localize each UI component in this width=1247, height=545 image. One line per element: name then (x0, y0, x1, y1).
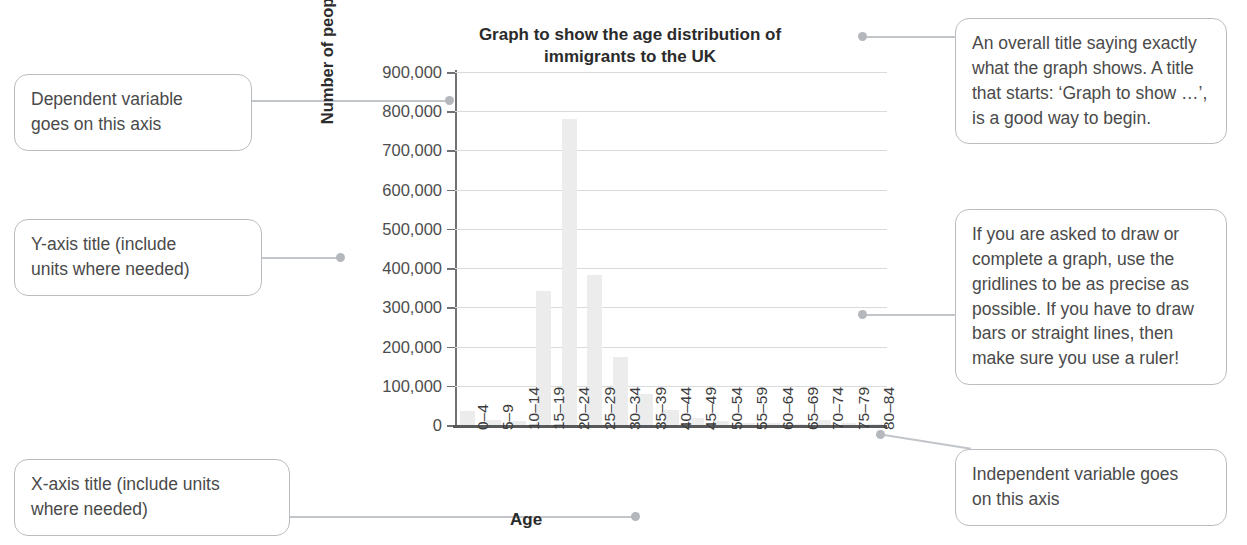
y-axis-tick-labels: 0100,000200,000300,000400,000500,000600,… (320, 14, 442, 434)
chart-title-line-1: Graph to show the age distribution of (479, 25, 781, 44)
y-axis-tick-label: 600,000 (330, 180, 442, 199)
gridline (455, 72, 887, 73)
x-axis-tick-label: 50–54 (728, 387, 746, 430)
y-axis-tick-label: 300,000 (330, 298, 442, 317)
y-axis-tick-label: 200,000 (330, 337, 442, 356)
x-axis-tick-label: 55–59 (753, 387, 771, 430)
gridline (455, 190, 887, 191)
callout-x-axis-title-text: X-axis title (include units where needed… (31, 472, 273, 522)
y-axis-tick-label: 700,000 (330, 141, 442, 160)
y-axis-tick-label: 900,000 (330, 63, 442, 82)
gridline (455, 347, 887, 348)
x-axis-tick-label: 60–64 (779, 387, 797, 430)
callout-y-axis-title: Y-axis title (include units where needed… (14, 219, 262, 296)
x-axis-tick-label: 20–24 (575, 387, 593, 430)
y-axis-tick-label: 0 (330, 416, 442, 435)
plot-area (455, 72, 887, 425)
chart-title: Graph to show the age distribution of im… (430, 24, 830, 68)
gridline (455, 150, 887, 151)
x-axis-tick-label: 45–49 (702, 387, 720, 430)
annotated-chart-page: Dependent variable goes on this axis Y-a… (0, 0, 1247, 545)
gridline (455, 307, 887, 308)
x-axis-tick-label: 70–74 (829, 387, 847, 430)
x-axis-tick-label: 0–4 (474, 404, 492, 430)
bar (562, 119, 577, 425)
x-axis-tick-label: 30–34 (626, 387, 644, 430)
bar (460, 411, 475, 425)
callout-overall-title-text: An overall title saying exactly what the… (972, 31, 1210, 130)
gridline (455, 386, 887, 387)
x-axis-tick-label: 80–84 (880, 387, 898, 430)
callout-independent-variable-text: Independent variable goes on this axis (972, 462, 1210, 512)
callout-y-axis-title-text: Y-axis title (include units where needed… (31, 232, 245, 282)
y-axis-tick-label: 400,000 (330, 259, 442, 278)
gridline (455, 229, 887, 230)
callout-independent-variable: Independent variable goes on this axis (955, 449, 1227, 526)
callout-dependent-variable-text: Dependent variable goes on this axis (31, 87, 235, 137)
x-axis-title: Age (510, 510, 542, 530)
callout-gridlines-advice: If you are asked to draw or complete a g… (955, 209, 1227, 385)
callout-dependent-variable: Dependent variable goes on this axis (14, 74, 252, 151)
gridline (455, 111, 887, 112)
x-axis-tick-label: 10–14 (525, 387, 543, 430)
x-axis-tick-labels: 0–45–910–1415–1920–2425–2930–3435–3940–4… (455, 430, 887, 510)
y-axis-tick-label: 500,000 (330, 219, 442, 238)
x-axis-tick-label: 35–39 (652, 387, 670, 430)
chart-title-line-2: immigrants to the UK (544, 47, 716, 66)
x-axis-tick-label: 15–19 (550, 387, 568, 430)
gridline (455, 268, 887, 269)
x-axis-tick-label: 25–29 (601, 387, 619, 430)
callout-overall-title: An overall title saying exactly what the… (955, 18, 1227, 144)
x-axis-tick-label: 65–69 (804, 387, 822, 430)
y-axis-tick-label: 800,000 (330, 102, 442, 121)
x-axis-tick-label: 40–44 (677, 387, 695, 430)
x-axis-tick-label: 75–79 (855, 387, 873, 430)
bar-chart: Graph to show the age distribution of im… (320, 14, 900, 534)
callout-x-axis-title: X-axis title (include units where needed… (14, 459, 290, 536)
y-axis-tick-label: 100,000 (330, 376, 442, 395)
callout-gridlines-advice-text: If you are asked to draw or complete a g… (972, 222, 1210, 371)
x-axis-tick-label: 5–9 (499, 404, 517, 430)
